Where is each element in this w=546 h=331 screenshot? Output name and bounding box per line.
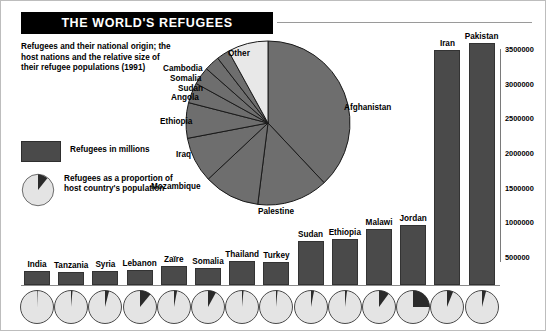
legend-row-bar: Refugees in millions — [21, 141, 186, 162]
pie-label-somalia: Somalia — [170, 74, 201, 83]
y-tick-500000: 500000 — [505, 253, 530, 262]
pie-label-afghanistan: Afghanistan — [344, 103, 391, 112]
pie-label-mozambique: Mozambique — [151, 182, 201, 191]
mini-pie-ethiopia — [327, 289, 363, 325]
pie-label-cambodia: Cambodia — [163, 64, 203, 73]
bar-swatch-icon — [21, 141, 61, 162]
proportion-mini-pies — [0, 289, 546, 331]
mini-pie-iran — [429, 289, 465, 325]
pie-label-angola: Angola — [171, 93, 199, 102]
mini-pie-jordan — [395, 289, 431, 325]
y-axis-line — [500, 49, 501, 262]
mini-pie-lebanon — [122, 289, 158, 325]
page-title: THE WORLD'S REFUGEES — [21, 12, 273, 34]
header-divider — [277, 22, 532, 23]
y-tick-2000000: 2000000 — [505, 149, 534, 158]
mini-pie-sudan — [293, 289, 329, 325]
mini-pie-zaïre — [156, 289, 192, 325]
mini-pie-somalia — [190, 289, 226, 325]
y-tick-3000000: 3000000 — [505, 80, 534, 89]
pie-label-ethiopia: Ethiopia — [160, 117, 192, 126]
proportion-pie-icon — [21, 173, 55, 207]
y-tick-1000000: 1000000 — [505, 218, 534, 227]
page-title-text: THE WORLD'S REFUGEES — [61, 16, 232, 30]
mini-pie-india — [19, 289, 55, 325]
mini-pie-thailand — [224, 289, 260, 325]
mini-pie-tanzania — [53, 289, 89, 325]
pie-label-palestine: Palestine — [258, 207, 294, 216]
mini-pie-pakistan — [464, 289, 500, 325]
mini-pie-turkey — [258, 289, 294, 325]
pie-label-other: Other — [228, 49, 250, 58]
caption-text: Refugees and their national origin; the … — [21, 42, 171, 74]
x-axis-baseline — [21, 285, 500, 286]
pie-label-iraq: Iraq — [176, 150, 191, 159]
pie-label-sudan: Sudan — [178, 84, 203, 93]
y-tick-2500000: 2500000 — [505, 114, 534, 123]
legend-bar-label: Refugees in millions — [70, 141, 150, 155]
y-tick-1500000: 1500000 — [505, 184, 534, 193]
y-tick-3500000: 3500000 — [505, 45, 534, 54]
mini-pie-syria — [87, 289, 123, 325]
origin-pie-chart — [183, 38, 353, 208]
legend: Refugees in millions Refugees as a propo… — [21, 141, 186, 218]
mini-pie-malawi — [361, 289, 397, 325]
origin-pie-svg — [183, 38, 353, 208]
